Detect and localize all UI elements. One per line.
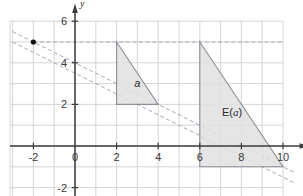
x-tick-8: 8 bbox=[238, 151, 244, 163]
y-tick-6: 6 bbox=[61, 15, 67, 27]
data-points bbox=[31, 39, 36, 44]
x-tick-6: 6 bbox=[197, 151, 203, 163]
x-tick--2: -2 bbox=[29, 151, 39, 163]
x-tick-10: 10 bbox=[277, 151, 289, 163]
annotation-Ea: E(a) bbox=[222, 106, 242, 118]
x-tick-0: 0 bbox=[72, 151, 78, 163]
y-tick-2: 2 bbox=[61, 98, 67, 110]
annotation-a: a bbox=[134, 77, 140, 89]
x-tick-2: 2 bbox=[114, 151, 120, 163]
coordinate-figure: -20246810-2246 aE(a) x y bbox=[0, 0, 303, 196]
x-tick-4: 4 bbox=[155, 151, 161, 163]
point-marker bbox=[31, 39, 36, 44]
y-tick-4: 4 bbox=[61, 57, 67, 69]
y-axis-label: y bbox=[79, 0, 85, 9]
y-tick--2: -2 bbox=[57, 182, 67, 194]
coordinate-plot-svg: -20246810-2246 aE(a) x y bbox=[0, 0, 303, 196]
